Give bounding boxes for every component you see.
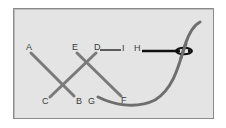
label-h: H — [134, 43, 141, 53]
label-d: D — [94, 42, 101, 52]
stitch-diagram: A E D I H C B G F — [0, 0, 226, 128]
label-c: C — [42, 96, 49, 106]
label-f: F — [121, 95, 127, 105]
label-e: E — [72, 42, 78, 52]
label-g: G — [88, 96, 95, 106]
stitch-d-c — [50, 53, 96, 97]
label-a: A — [26, 42, 32, 52]
thread-through-eye — [181, 44, 186, 58]
stitch-e-f — [77, 53, 121, 96]
label-i: I — [122, 43, 125, 53]
thread-curve — [98, 22, 200, 105]
label-b: B — [76, 96, 82, 106]
stitch-a-b — [31, 53, 74, 96]
